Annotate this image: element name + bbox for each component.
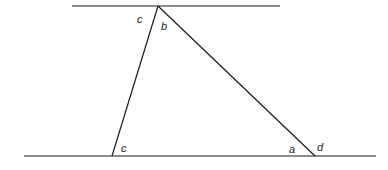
triangle-right-side (158, 6, 315, 156)
diagram-canvas: c b c a d (0, 0, 388, 170)
angle-label-bottom-c: c (121, 142, 127, 154)
diagram-svg: c b c a d (0, 0, 388, 170)
angle-label-bottom-d: d (317, 141, 324, 153)
angle-label-top-b: b (161, 20, 167, 32)
angle-label-bottom-a: a (289, 143, 295, 155)
angle-label-top-c: c (137, 13, 143, 25)
triangle-left-side (112, 6, 158, 156)
